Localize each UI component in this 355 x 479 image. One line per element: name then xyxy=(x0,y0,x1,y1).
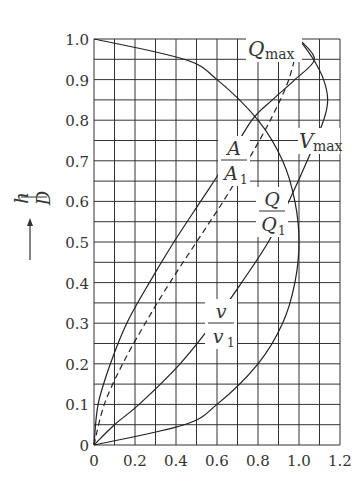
y-axis-label: h D xyxy=(11,190,54,260)
x-tick-label: 0.2 xyxy=(123,452,147,470)
x-tick-label: 0.8 xyxy=(246,452,270,470)
discharge-ratio-label-denominator: Q xyxy=(261,213,277,235)
y-tick-label: 0.6 xyxy=(65,193,89,211)
discharge-ratio-label-numerator: Q xyxy=(264,188,280,210)
x-tick-label: 0.4 xyxy=(164,452,188,470)
y-tick-label: 0 xyxy=(79,437,89,455)
x-tick-label: 1.0 xyxy=(287,452,311,470)
y-tick-label: 0.3 xyxy=(65,315,89,333)
qmax-label: Q xyxy=(248,37,264,61)
arrowhead-icon xyxy=(27,218,33,226)
ylabel-numerator: h xyxy=(11,192,32,204)
qmax-subscript: max xyxy=(265,46,295,62)
y-tick-label: 1.0 xyxy=(65,31,89,49)
ylabel-denominator: D xyxy=(33,190,54,206)
x-tick-label: 1.2 xyxy=(328,452,352,470)
y-tick-label: 0.7 xyxy=(65,153,89,171)
velocity-ratio-label-denominator: v xyxy=(213,325,224,347)
y-tick-label: 0.4 xyxy=(65,275,89,293)
velocity-ratio-label-subscript: 1 xyxy=(227,336,235,350)
y-tick-label: 0.2 xyxy=(65,356,89,374)
y-tick-label: 0.8 xyxy=(65,112,89,130)
hydraulic-elements-chart: 00.20.40.60.81.01.200.10.20.30.40.50.60.… xyxy=(0,0,355,479)
area-ratio-label-denominator: A xyxy=(222,162,238,184)
vmax-subscript: max xyxy=(313,138,343,154)
area-ratio-label-subscript: 1 xyxy=(240,173,248,187)
discharge-ratio-label-subscript: 1 xyxy=(278,224,286,238)
y-tick-label: 0.1 xyxy=(65,396,89,414)
x-tick-label: 0 xyxy=(89,452,99,470)
y-tick-label: 0.5 xyxy=(65,234,89,252)
x-tick-label: 0.6 xyxy=(205,452,229,470)
grid xyxy=(94,39,340,445)
area-ratio-label-numerator: A xyxy=(225,137,241,159)
y-tick-label: 0.9 xyxy=(65,72,89,90)
velocity-ratio-label-numerator: v xyxy=(216,300,227,322)
